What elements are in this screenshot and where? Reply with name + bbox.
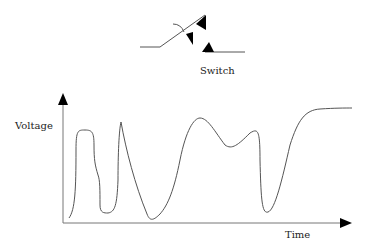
y-axis-arrow-icon — [58, 93, 68, 105]
switch-contact-arrows — [186, 15, 214, 52]
y-axis-label: Voltage — [15, 120, 53, 131]
diagram-canvas — [0, 0, 373, 248]
voltage-waveform — [69, 108, 352, 219]
switch-label: Switch — [200, 65, 235, 76]
x-axis-arrow-icon — [340, 218, 352, 228]
x-axis-label: Time — [285, 229, 310, 240]
